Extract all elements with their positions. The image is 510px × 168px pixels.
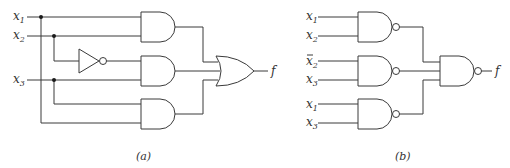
inversion-bubble bbox=[100, 58, 107, 65]
inversion-bubble bbox=[393, 68, 400, 75]
junction-dot bbox=[52, 78, 56, 82]
and-gate-2 bbox=[141, 56, 175, 86]
wire-x1-to-and3 bbox=[41, 17, 141, 123]
wire-and1-to-or bbox=[175, 27, 218, 62]
panel-a-circuit: x1 x2 x3 f (a) bbox=[13, 9, 278, 163]
nand-gate-output bbox=[440, 56, 474, 86]
input-label-x2: x2 bbox=[306, 28, 318, 44]
caption-a: (a) bbox=[136, 150, 151, 163]
or-gate bbox=[216, 56, 254, 86]
input-label-x3: x3 bbox=[306, 72, 318, 88]
input-label-x2-bar: x2 bbox=[306, 54, 318, 70]
panel-b-circuit: x1 x2 x2 x3 x1 x3 f (b) bbox=[306, 9, 502, 163]
nand-gate-3 bbox=[358, 99, 392, 129]
wire-x2-to-not bbox=[54, 36, 79, 61]
junction-dot bbox=[39, 15, 43, 19]
and-gate-1 bbox=[141, 12, 175, 42]
nand-gate-2 bbox=[358, 56, 392, 86]
input-label-x2: x2 bbox=[13, 28, 25, 44]
inversion-bubble bbox=[393, 24, 400, 31]
input-label-x1: x1 bbox=[13, 9, 25, 25]
output-label-f: f bbox=[494, 64, 502, 78]
junction-dot bbox=[52, 34, 56, 38]
inversion-bubble bbox=[393, 111, 400, 118]
wire-nand1-to-nand4 bbox=[400, 27, 441, 62]
output-label-f: f bbox=[270, 64, 278, 78]
wire-and3-to-or bbox=[175, 80, 218, 114]
wire-nand3-to-nand4 bbox=[400, 80, 441, 114]
wire-x3-to-and3 bbox=[54, 80, 141, 104]
nand-gate-1 bbox=[358, 12, 392, 42]
caption-b: (b) bbox=[395, 150, 411, 163]
input-label-x1: x1 bbox=[306, 97, 318, 113]
circuit-diagrams: x1 x2 x3 f (a) x1 bbox=[0, 0, 510, 168]
and-gate-3 bbox=[141, 99, 175, 129]
inversion-bubble bbox=[475, 68, 482, 75]
logic-circuit-figure: x1 x2 x3 f (a) x1 bbox=[0, 0, 510, 168]
input-label-x3: x3 bbox=[13, 72, 25, 88]
input-label-x1: x1 bbox=[306, 9, 318, 25]
not-gate bbox=[79, 49, 99, 73]
input-label-x3: x3 bbox=[306, 115, 318, 131]
